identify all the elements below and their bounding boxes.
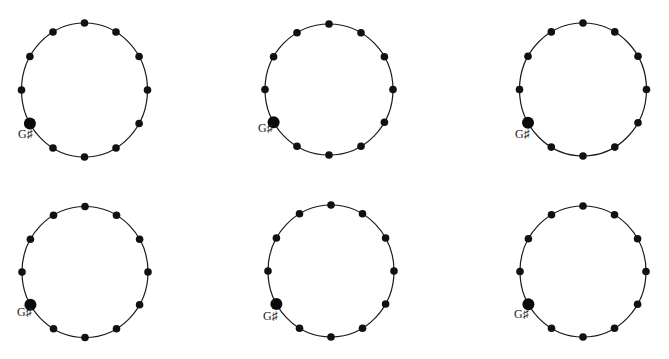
pitch-dot [18,268,26,276]
pitch-dot [325,151,333,159]
pitch-dot [548,28,556,36]
pitch-dot [49,28,57,36]
pitch-dot [524,52,532,60]
pitch-dot [26,53,34,61]
circle-outline [268,205,394,337]
pitch-dot [273,234,281,242]
circles-group: G♯G♯G♯G♯G♯G♯ [17,19,650,341]
pitch-dot [264,267,272,275]
pitch-dot [579,19,587,27]
pitch-dot [579,202,587,210]
pitch-dot [359,210,367,218]
pitch-dot [81,19,89,27]
pitch-dot [293,29,301,37]
pitch-circle: G♯ [18,19,152,161]
pitch-dot [516,268,524,276]
pitch-dot [389,86,397,94]
pitch-dot [525,235,533,243]
pitch-dot [359,324,367,332]
pitch-dot [548,211,556,219]
pitch-dot [357,142,365,150]
pitch-label: G♯ [515,127,530,141]
pitch-dot [296,210,304,218]
pitch-dot [642,268,650,276]
pitch-dot [135,53,143,61]
pitch-dot [144,268,152,276]
pitch-dot [81,203,89,211]
pitch-circle: G♯ [258,20,397,159]
circle-outline [22,207,148,338]
pitch-dot [296,324,304,332]
pitch-dot [113,212,121,220]
pitch-circle: G♯ [515,19,650,160]
pitch-dot [611,324,619,332]
pitch-label: G♯ [18,127,33,141]
pitch-circle: G♯ [263,201,398,341]
pitch-dot [382,300,390,308]
pitch-dot [50,212,58,220]
pitch-dot [611,143,619,151]
pitch-dot [50,325,58,333]
pitch-dot [390,267,398,275]
pitch-dot [136,301,144,309]
pitch-dot [611,211,619,219]
pitch-circle-diagram: G♯G♯G♯G♯G♯G♯ [0,0,669,359]
pitch-dot [18,86,26,94]
pitch-dot [634,235,642,243]
pitch-label: G♯ [258,121,273,135]
pitch-dot [49,144,57,152]
pitch-label: G♯ [263,309,278,323]
pitch-dot [261,86,269,94]
pitch-dot [81,153,89,161]
circle-outline [265,24,393,155]
pitch-dot [325,20,333,28]
pitch-circle: G♯ [514,202,650,341]
pitch-dot [548,324,556,332]
pitch-dot [270,53,278,61]
pitch-dot [357,29,365,37]
pitch-dot [81,334,89,342]
pitch-dot [611,28,619,36]
pitch-dot [516,86,524,94]
pitch-dot [381,119,389,127]
pitch-dot [634,301,642,309]
pitch-dot [327,201,335,209]
pitch-dot [27,236,35,244]
circle-outline [520,23,647,156]
pitch-dot [113,325,121,333]
circle-outline [520,206,646,337]
pitch-label: G♯ [514,307,529,321]
pitch-dot [634,119,642,127]
pitch-dot [634,52,642,60]
pitch-dot [579,152,587,160]
pitch-dot [144,86,152,94]
pitch-dot [112,28,120,36]
pitch-circle: G♯ [17,203,152,342]
pitch-dot [548,143,556,151]
pitch-label: G♯ [17,305,32,319]
pitch-dot [135,120,143,128]
pitch-dot [382,234,390,242]
pitch-dot [381,53,389,61]
pitch-dot [327,333,335,341]
pitch-dot [293,142,301,150]
pitch-dot [643,86,651,94]
pitch-dot [136,235,144,243]
pitch-dot [112,144,120,152]
circle-outline [22,23,148,157]
pitch-dot [579,333,587,341]
